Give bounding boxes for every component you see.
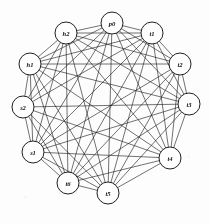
graph-edge (76, 39, 180, 99)
graph-edge (39, 32, 107, 142)
graph-edge (39, 70, 161, 152)
graph-edge (38, 40, 57, 57)
graph-node-s1[interactable]: s1 (22, 141, 44, 163)
node-label: t4 (168, 155, 174, 162)
graph-edge (182, 75, 186, 94)
node-label: t1 (150, 30, 155, 37)
graph-node-t6[interactable]: t6 (57, 172, 79, 194)
node-label: t6 (66, 180, 72, 187)
node-label: t2 (178, 61, 184, 68)
node-label: s2 (19, 104, 26, 111)
node-label: s1 (29, 149, 36, 156)
graph-edge (42, 70, 170, 147)
graph-edge (44, 107, 179, 149)
node-label: t3 (187, 101, 193, 108)
graph-edge (79, 186, 98, 191)
graph-node-s2[interactable]: s2 (12, 96, 34, 118)
graph-figure: p0t1t2t3t4t5t6s1s2h1h2 (0, 0, 210, 224)
graph-edge (25, 75, 28, 96)
graph-node-t4[interactable]: t4 (159, 147, 181, 169)
graph-node-t5[interactable]: t5 (97, 182, 119, 204)
graph-edge (44, 152, 159, 157)
graph-edge (41, 41, 144, 144)
node-label: p0 (108, 20, 116, 27)
graph-node-h2[interactable]: h2 (55, 22, 77, 44)
graph-edge (66, 44, 68, 172)
graph-node-t1[interactable]: t1 (141, 22, 163, 44)
graph-edge (159, 41, 172, 56)
node-label: t5 (106, 190, 112, 197)
graph-node-h1[interactable]: h1 (19, 53, 41, 75)
graph-edge (25, 118, 30, 142)
graph-edge (77, 25, 102, 30)
graph-edge (36, 44, 63, 142)
graph-edge (79, 161, 160, 181)
graph-node-p0[interactable]: p0 (101, 12, 123, 34)
graph-node-t3[interactable]: t3 (178, 93, 200, 115)
graph-canvas: p0t1t2t3t4t5t6s1s2h1h2 (0, 0, 210, 224)
graph-node-t2[interactable]: t2 (169, 53, 191, 75)
node-label: h2 (63, 30, 71, 37)
graph-edge (73, 41, 163, 149)
graph-edge (69, 44, 105, 183)
node-label: h1 (27, 61, 34, 68)
graph-edge (123, 26, 142, 31)
graph-edge (116, 33, 165, 148)
